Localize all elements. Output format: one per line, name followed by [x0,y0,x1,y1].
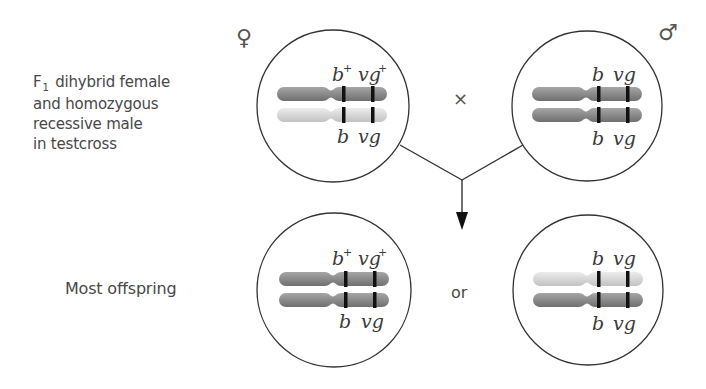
parental-label-line-4: in testcross [33,134,170,154]
svg-text:b: b [592,312,604,334]
svg-text:vg: vg [613,247,636,269]
svg-text:vg: vg [613,127,636,149]
male-symbol-icon: ♂ [658,22,678,44]
offspring-label: Most offspring [65,279,176,299]
female-symbol-icon: ♀ [236,27,252,49]
diagram-graphics: b + vg + b vg b vg b vg [0,0,706,389]
svg-text:b: b [592,63,604,85]
cell-female-parent: b + vg + b vg [257,30,409,182]
cell-offspring-recessive: b vg b vg [513,215,663,365]
arrowhead-icon [456,212,468,230]
svg-text:b: b [592,247,604,269]
svg-text:+: + [378,246,387,259]
parental-label-line-1: F1 dihybrid female [33,72,170,94]
svg-text:vg: vg [361,310,384,332]
svg-text:b: b [592,127,604,149]
cell-male-parent: b vg b vg [512,31,662,181]
parental-label-line-2: and homozygous [33,94,170,114]
parental-label-line-3: recessive male [33,114,170,134]
parental-generation-label: F1 dihybrid female and homozygous recess… [33,72,170,154]
svg-text:b: b [339,310,351,332]
or-label: or [451,283,467,302]
svg-text:vg: vg [613,63,636,85]
svg-text:+: + [343,246,352,259]
allele-b: b [337,125,349,147]
testcross-diagram: b + vg + b vg b vg b vg [0,0,706,389]
svg-text:+: + [378,62,387,75]
cross-sign: × [453,88,468,109]
cross-connector [400,145,523,214]
cell-offspring-wild-type: b + vg + b vg [257,213,411,367]
svg-text:vg: vg [613,312,636,334]
allele-vg: vg [358,125,381,147]
svg-text:+: + [343,62,352,75]
